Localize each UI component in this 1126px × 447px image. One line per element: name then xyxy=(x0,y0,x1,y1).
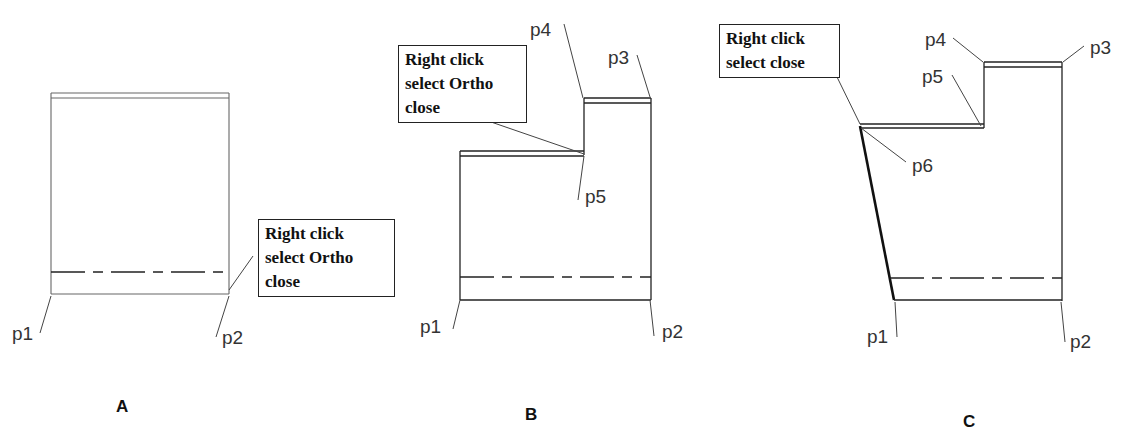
panel-label-a: A xyxy=(116,397,128,416)
callout-line: select Ortho xyxy=(265,246,386,270)
point-label-p2: p2 xyxy=(1070,331,1091,352)
point-label-p4: p4 xyxy=(925,29,947,50)
point-label-p5: p5 xyxy=(585,186,606,207)
callout-panel-b: Right click select Ortho close xyxy=(398,45,527,123)
callout-line: Right click xyxy=(726,27,831,51)
callout-panel-a: Right click select Ortho close xyxy=(258,219,395,297)
point-label-p1: p1 xyxy=(420,316,441,337)
point-label-p3: p3 xyxy=(1090,37,1111,58)
callout-line: Right click xyxy=(265,222,386,246)
point-label-p1: p1 xyxy=(867,326,888,347)
point-label-p2: p2 xyxy=(222,327,243,348)
point-label-p3: p3 xyxy=(608,47,629,68)
callout-line: select Ortho xyxy=(405,72,518,96)
panel-label-b: B xyxy=(525,405,537,424)
panel-c-drawing: p4 p3 p5 p6 p1 p2 C xyxy=(837,29,1111,431)
point-label-p1: p1 xyxy=(12,323,33,344)
panel-a-drawing: p1 p2 A xyxy=(12,93,253,416)
callout-line: select close xyxy=(726,51,831,75)
callout-panel-c: Right click select close xyxy=(719,24,840,78)
point-label-p4: p4 xyxy=(530,19,552,40)
diagram-canvas: p1 p2 A p4 p3 p5 p1 p2 B xyxy=(0,0,1126,447)
callout-line: Right click xyxy=(405,48,518,72)
point-label-p5: p5 xyxy=(922,66,943,87)
callout-line: close xyxy=(265,270,386,294)
callout-line: close xyxy=(405,96,518,120)
panel-label-c: C xyxy=(963,412,975,431)
point-label-p2: p2 xyxy=(662,321,683,342)
point-label-p6: p6 xyxy=(912,155,933,176)
